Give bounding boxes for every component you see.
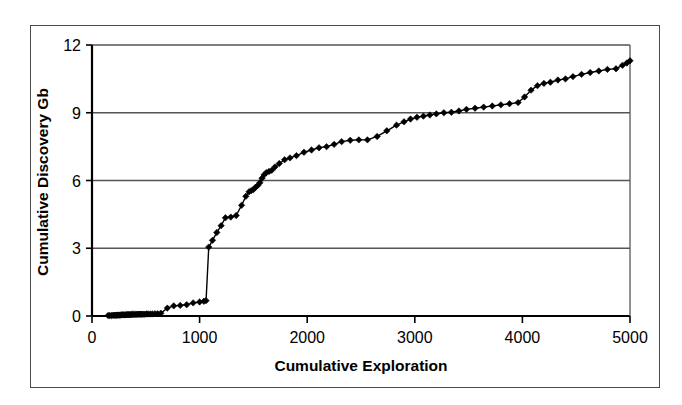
data-point-marker xyxy=(401,119,407,125)
y-tick-label: 6 xyxy=(72,173,81,190)
chart-figure: 036912 010002000300040005000 Cumulative … xyxy=(0,0,682,405)
data-point-marker xyxy=(407,116,413,122)
data-point-marker xyxy=(562,76,568,82)
data-point-marker xyxy=(555,77,561,83)
data-point-marker xyxy=(441,110,447,116)
data-point-marker xyxy=(570,73,576,79)
data-point-marker xyxy=(293,152,299,158)
data-point-marker xyxy=(393,122,399,128)
data-point-marker xyxy=(541,80,547,86)
data-point-marker xyxy=(489,103,495,109)
data-point-marker xyxy=(228,214,234,220)
data-point-marker xyxy=(420,113,426,119)
data-point-marker xyxy=(463,106,469,112)
data-point-marker xyxy=(171,303,177,309)
data-point-marker xyxy=(331,141,337,147)
data-point-marker xyxy=(498,102,504,108)
y-tick-label: 12 xyxy=(63,37,81,54)
data-point-marker xyxy=(338,138,344,144)
data-point-marker xyxy=(183,302,189,308)
x-tick-label: 4000 xyxy=(505,329,541,346)
data-point-marker xyxy=(316,145,322,151)
data-point-marker xyxy=(233,212,239,218)
data-point-marker xyxy=(604,66,610,72)
x-tick-label: 5000 xyxy=(612,329,648,346)
data-point-marker xyxy=(384,128,390,134)
data-point-marker xyxy=(578,71,584,77)
data-point-marker xyxy=(222,215,228,221)
data-point-marker xyxy=(613,66,619,72)
y-tick-label: 9 xyxy=(72,105,81,122)
x-tick-label: 3000 xyxy=(397,329,433,346)
x-tick-label: 1000 xyxy=(182,329,218,346)
data-point-marker xyxy=(238,202,244,208)
y-tick-label: 0 xyxy=(72,308,81,325)
data-point-marker xyxy=(177,302,183,308)
chart-canvas: 036912 010002000300040005000 Cumulative … xyxy=(0,0,682,405)
data-point-marker xyxy=(414,114,420,120)
data-point-marker xyxy=(301,149,307,155)
y-axis-title: Cumulative Discovery Gb xyxy=(34,88,51,276)
data-point-marker xyxy=(547,79,553,85)
data-point-marker xyxy=(472,105,478,111)
data-point-marker xyxy=(596,68,602,74)
data-point-marker xyxy=(364,137,370,143)
data-point-marker xyxy=(448,109,454,115)
y-tick-group: 036912 xyxy=(63,37,92,325)
x-tick-label: 2000 xyxy=(289,329,325,346)
y-tick-label: 3 xyxy=(72,240,81,257)
data-point-marker xyxy=(480,104,486,110)
data-point-marker xyxy=(356,137,362,143)
data-point-marker xyxy=(374,133,380,139)
data-point-marker xyxy=(209,237,215,243)
data-point-marker xyxy=(190,300,196,306)
x-axis-title: Cumulative Exploration xyxy=(274,357,447,374)
data-point-marker xyxy=(206,244,212,250)
data-point-marker xyxy=(308,147,314,153)
gridline-group xyxy=(92,45,630,248)
data-series-line xyxy=(108,61,630,316)
data-point-marker xyxy=(433,111,439,117)
data-point-marker xyxy=(506,101,512,107)
data-series-markers xyxy=(105,58,633,319)
data-point-marker xyxy=(347,137,353,143)
x-tick-group: 010002000300040005000 xyxy=(88,316,648,346)
x-tick-label: 0 xyxy=(88,329,97,346)
data-point-marker xyxy=(323,143,329,149)
data-point-marker xyxy=(587,69,593,75)
